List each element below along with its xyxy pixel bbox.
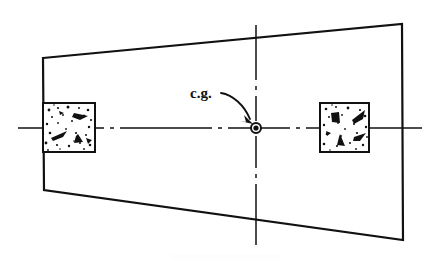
left-concrete-pad (43, 103, 95, 152)
diagram-canvas: c.g. (0, 0, 439, 267)
right-concrete-pad (320, 103, 369, 152)
center-of-gravity-marker (251, 123, 261, 133)
technical-diagram-svg (0, 0, 439, 267)
scan-smudge (170, 254, 280, 259)
right-pad-box (320, 103, 369, 152)
cg-marker-dot (253, 125, 258, 130)
cg-label: c.g. (190, 86, 212, 101)
